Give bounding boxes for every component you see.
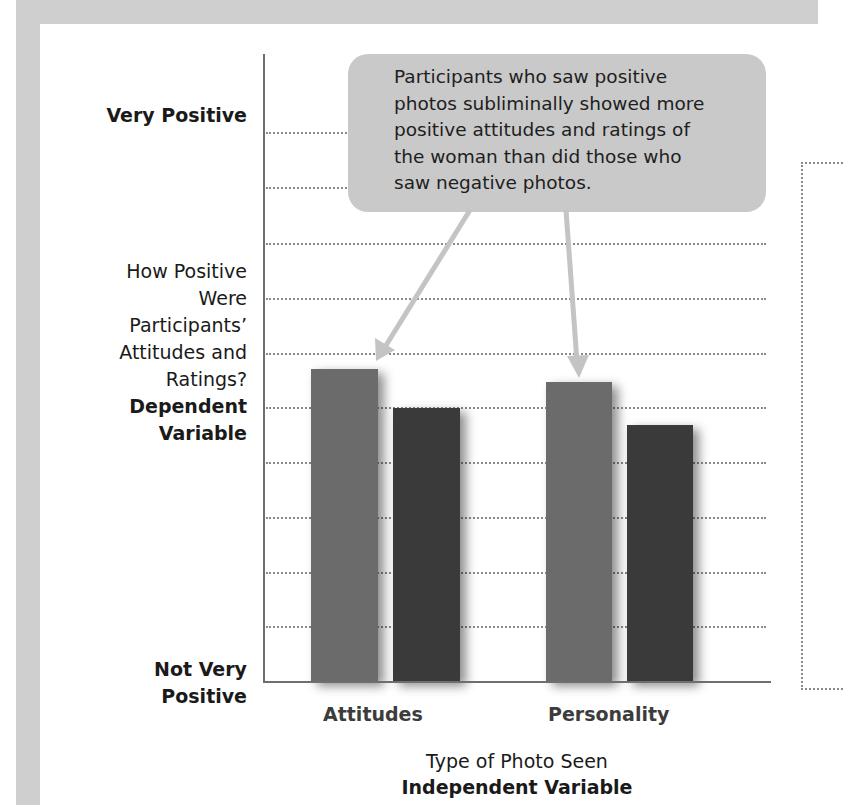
y-axis-line <box>263 54 265 683</box>
callout-line: photos subliminally showed more <box>394 91 766 118</box>
side-dotted-box <box>801 162 843 690</box>
callout-line: Participants who saw positive <box>394 64 766 91</box>
y-dependent-line-1: Dependent <box>129 393 247 420</box>
y-bottom-label-line-2: Positive <box>161 683 247 710</box>
bar-attitudes-positive <box>311 369 378 682</box>
x-axis-title: Type of Photo Seen <box>263 750 771 772</box>
y-axis-title-line-3: Participants’ <box>129 312 247 339</box>
x-axis-subtitle: Independent Variable <box>263 776 771 798</box>
annotation-callout: Participants who saw positive photos sub… <box>348 54 766 212</box>
callout-line: saw negative photos. <box>394 170 766 197</box>
y-dependent-line-2: Variable <box>159 420 247 447</box>
frame-top-border <box>16 0 818 24</box>
gridline <box>266 298 766 300</box>
gridline <box>266 243 766 245</box>
gridline <box>266 353 766 355</box>
x-category-personality: Personality <box>548 703 669 725</box>
frame-left-border <box>16 0 40 805</box>
y-top-label: Very Positive <box>106 102 247 129</box>
y-axis-title-line-1: How Positive <box>126 258 247 285</box>
x-category-attitudes: Attitudes <box>323 703 423 725</box>
y-axis-title-line-5: Ratings? <box>166 366 247 393</box>
bar-personality-positive <box>546 382 612 682</box>
callout-line: the woman than did those who <box>394 144 766 171</box>
bar-personality-negative <box>627 425 693 682</box>
x-axis-line <box>263 681 771 683</box>
y-axis-title-line-4: Attitudes and <box>119 339 247 366</box>
y-axis-title-line-2: Were <box>199 285 247 312</box>
y-bottom-label-line-1: Not Very <box>154 656 247 683</box>
callout-line: positive attitudes and ratings of <box>394 117 766 144</box>
bar-attitudes-negative <box>393 408 460 682</box>
